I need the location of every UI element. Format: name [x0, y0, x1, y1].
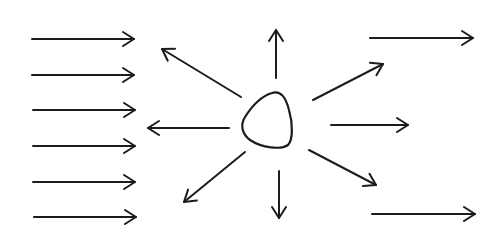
incident-arrow-1 [32, 32, 134, 46]
incident-arrow-6 [34, 210, 136, 224]
scattered-arrow-right [331, 118, 408, 132]
scattered-arrow-up [269, 30, 283, 78]
arrow-shaft [184, 152, 245, 202]
incident-arrow-5 [33, 175, 135, 189]
scatterer-obstacle [242, 92, 292, 147]
diagram-svg [0, 0, 500, 233]
scattered-arrow-left [148, 121, 229, 135]
scattered-arrow-lower-right [309, 150, 376, 186]
scattered-arrow-upper-right [313, 63, 383, 100]
arrow-shaft [309, 150, 376, 185]
transmitted-arrow-1 [370, 31, 473, 45]
incident-plane-wave-arrows [32, 32, 136, 224]
incident-arrow-2 [32, 68, 134, 82]
arrow-shaft [162, 49, 241, 97]
scattering-diagram [0, 0, 500, 233]
arrow-shaft [313, 64, 383, 100]
transmitted-arrow-2 [372, 207, 475, 221]
scattered-arrow-down [272, 171, 286, 218]
scattered-arrow-upper-left [162, 49, 241, 97]
scattered-arrow-lower-left [184, 152, 245, 202]
incident-arrow-3 [33, 103, 135, 117]
incident-arrow-4 [33, 139, 135, 153]
